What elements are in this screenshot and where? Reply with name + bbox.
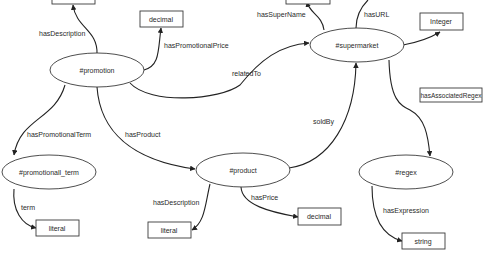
node-supermarket: #supermarket <box>310 28 404 62</box>
edge-label-box-hasassociatedregex: hasAssociatedRegex <box>420 88 482 102</box>
svg-text:#product: #product <box>229 167 256 175</box>
literal-supermarket-integer: Integer <box>420 13 463 30</box>
node-promotion: #promotion <box>50 53 144 87</box>
literal-promotion-description <box>52 0 95 4</box>
node-regex: #regex <box>359 155 453 189</box>
svg-text:hasAssociatedRegex: hasAssociatedRegex <box>420 92 482 100</box>
edge-hassupername <box>307 2 324 30</box>
node-promotional-term: #promotionall_term <box>2 155 96 189</box>
svg-text:decimal: decimal <box>149 16 174 23</box>
edge-hasdescription-product <box>192 184 210 230</box>
label-haspromotionalprice: hasPromotionalPrice <box>164 42 229 49</box>
label-hasprice: hasPrice <box>251 194 278 201</box>
edge-hasassociatedregex <box>389 60 430 156</box>
edge-relatedto <box>130 43 309 98</box>
svg-text:literal: literal <box>49 225 66 232</box>
edge-haspromotionalprice <box>144 28 161 70</box>
svg-text:#promotion: #promotion <box>79 67 114 75</box>
label-hasdescription-promotion: hasDescription <box>39 30 85 38</box>
edge-hasproduct <box>97 87 195 169</box>
label-hasdescription-product: hasDescription <box>153 199 199 207</box>
label-haspromotionalterm: hasPromotionalTerm <box>27 131 91 138</box>
label-term: term <box>21 204 35 211</box>
label-hasproduct: hasProduct <box>125 131 160 138</box>
edge-haspromotionalterm <box>14 85 65 155</box>
label-hasexpression: hasExpression <box>383 207 429 215</box>
label-hasurl: hasURL <box>364 11 389 18</box>
svg-text:decimal: decimal <box>307 213 332 220</box>
svg-text:#promotionall_term: #promotionall_term <box>19 169 79 177</box>
literal-term: literal <box>36 220 79 236</box>
label-soldby: soldBy <box>313 118 335 126</box>
svg-text:string: string <box>414 238 431 246</box>
literal-regex-expression: string <box>402 233 445 249</box>
literal-promotion-price: decimal <box>140 11 183 27</box>
literal-product-price: decimal <box>298 208 341 225</box>
edge-integer <box>403 32 440 45</box>
svg-text:literal: literal <box>161 227 178 234</box>
label-hassupername: hasSuperName <box>257 11 306 19</box>
svg-text:Integer: Integer <box>430 18 452 26</box>
svg-text:#supermarket: #supermarket <box>336 42 379 50</box>
ontology-diagram: decimal Integer literal literal decimal … <box>0 0 493 260</box>
label-relatedto: relatedTo <box>232 70 261 77</box>
edge-hasprice <box>241 187 298 217</box>
node-product: #product <box>196 153 290 187</box>
svg-text:#regex: #regex <box>395 169 417 177</box>
edge-soldby <box>289 63 356 168</box>
literal-supermarket-name <box>286 0 330 4</box>
literal-product-description: literal <box>148 222 191 238</box>
